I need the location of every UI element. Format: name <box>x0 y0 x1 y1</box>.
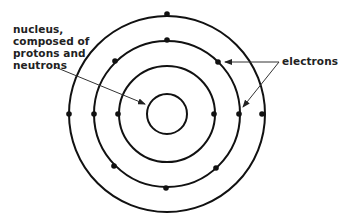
electron-dot <box>259 111 265 117</box>
electron-dot <box>215 59 221 65</box>
electron-dot <box>164 37 170 43</box>
nucleus-label-line-3: protons and <box>13 47 90 59</box>
nucleus-label: nucleus, composed of protons and neutron… <box>13 23 90 71</box>
electron-dot <box>213 165 219 171</box>
shell-inner <box>119 66 215 162</box>
electron-dot <box>66 111 72 117</box>
electron-dot <box>211 111 217 117</box>
nucleus-label-line-2: composed of <box>13 35 90 47</box>
nucleus-circle <box>147 94 187 134</box>
electron-dot <box>91 111 97 117</box>
arrow-to-electron <box>243 62 279 107</box>
electron-dot <box>236 111 242 117</box>
shell-outer <box>69 16 265 212</box>
electron-shells <box>69 16 265 212</box>
electron-dot <box>163 185 169 191</box>
nucleus-label-line-1: nucleus, <box>13 23 90 35</box>
electrons-label: electrons <box>282 55 338 67</box>
electron-dot <box>164 11 170 17</box>
electron-dot <box>115 111 121 117</box>
electron-dot <box>112 58 118 64</box>
electron-dot <box>111 163 117 169</box>
nucleus-label-line-4: neutrons <box>13 59 90 71</box>
arrow-to-nucleus <box>55 67 145 104</box>
